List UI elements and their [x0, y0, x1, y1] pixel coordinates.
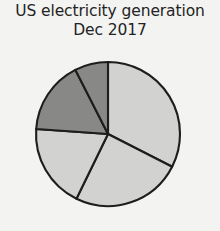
pie-chart: [0, 0, 220, 231]
pie-chart-svg: [0, 0, 220, 231]
chart-figure: US electricity generation Dec 2017: [0, 0, 220, 231]
pie-slice-group: [36, 62, 180, 206]
